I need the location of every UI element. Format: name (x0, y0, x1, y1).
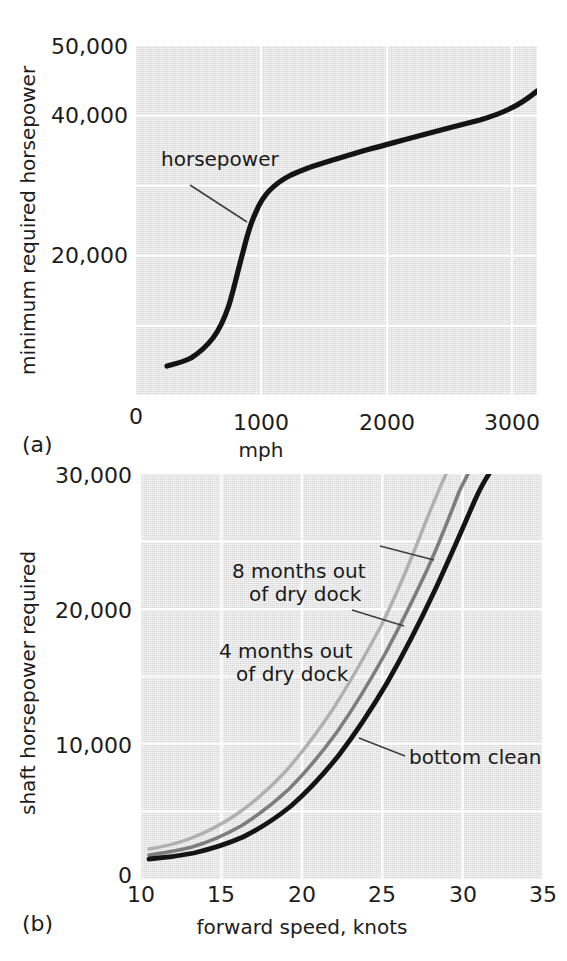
panel-b-xtick-15: 15 (193, 884, 249, 906)
panel-b-x-axis-label: forward speed, knots (192, 917, 412, 937)
panel-b-xtick-30: 30 (435, 884, 491, 906)
panel-a-x-axis-label: mph (221, 440, 301, 460)
panel-a-xtick-2000: 2000 (345, 412, 429, 434)
figure-container: 50,000 40,000 20,000 minimum required ho… (0, 0, 567, 961)
panel-a: 50,000 40,000 20,000 minimum required ho… (0, 0, 567, 460)
panel-a-xtick-1000: 1000 (219, 412, 303, 434)
panel-a-annotation-horsepower-line1: horsepower (161, 147, 279, 171)
panel-b-xtick-20: 20 (274, 884, 330, 906)
panel-a-plot-svg (0, 0, 567, 460)
panel-b-annotation-4-months: 4 months out of dry dock (219, 640, 353, 686)
panel-b-annotation-4-months-line2: of dry dock (219, 663, 353, 686)
panel-b-annotation-8-months-line2: of dry dock (232, 583, 366, 606)
panel-b-xtick-35: 35 (515, 884, 567, 906)
panel-b-annotation-8-months-line1: 8 months out (232, 559, 366, 583)
panel-b-leader-8-months (380, 546, 434, 560)
panel-a-gridlines-vertical (261, 46, 512, 395)
panel-b-annotation-bottom-clean: bottom clean (409, 746, 541, 769)
panel-a-annotation-horsepower: horsepower (161, 148, 279, 171)
panel-b-xtick-25: 25 (354, 884, 410, 906)
panel-b-annotation-bottom-clean-line1: bottom clean (409, 745, 541, 769)
panel-b: 30,000 20,000 10,000 0 shaft horsepower … (0, 460, 567, 961)
panel-b-xtick-10: 10 (113, 884, 169, 906)
panel-b-annotation-8-months: 8 months out of dry dock (232, 560, 366, 606)
panel-a-letter: (a) (22, 434, 53, 456)
panel-b-annotation-4-months-line1: 4 months out (219, 639, 353, 663)
panel-a-leader-horsepower (190, 185, 247, 222)
panel-a-curve-horsepower (167, 91, 537, 366)
panel-b-leader-4-months (352, 610, 404, 626)
panel-b-letter: (b) (22, 913, 53, 935)
panel-a-xtick-0: 0 (106, 406, 166, 428)
panel-a-xtick-3000: 3000 (470, 412, 554, 434)
